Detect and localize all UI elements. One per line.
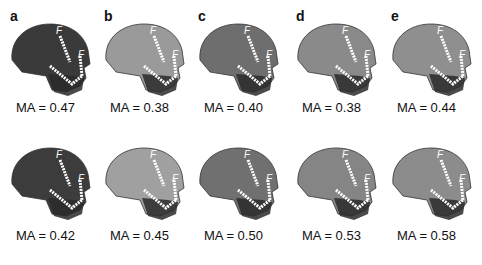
skull-image-c-bottom: FF — [192, 140, 287, 226]
skull-image-d-bottom: FF — [290, 140, 385, 226]
force-label: F — [172, 49, 179, 60]
skull-image-d-top: FF — [290, 16, 385, 102]
skull-image-e-top: FF — [385, 16, 480, 102]
force-label: F — [244, 149, 251, 160]
force-label: F — [459, 49, 466, 60]
ma-value-c-top: MA = 0.40 — [204, 100, 263, 115]
force-label: F — [437, 149, 444, 160]
force-label: F — [150, 25, 157, 36]
force-label: F — [56, 149, 63, 160]
force-label: F — [244, 25, 251, 36]
force-label: F — [364, 173, 371, 184]
force-label: F — [172, 173, 179, 184]
skull-image-e-bottom: FF — [385, 140, 480, 226]
ma-value-c-bottom: MA = 0.50 — [204, 228, 263, 243]
ma-value-d-top: MA = 0.38 — [302, 100, 361, 115]
force-label: F — [364, 49, 371, 60]
force-label: F — [56, 25, 63, 36]
force-label: F — [78, 173, 85, 184]
force-label: F — [342, 25, 349, 36]
force-label: F — [437, 25, 444, 36]
force-label: F — [266, 173, 273, 184]
ma-value-e-top: MA = 0.44 — [397, 100, 456, 115]
force-label: F — [150, 149, 157, 160]
ma-value-b-bottom: MA = 0.45 — [110, 228, 169, 243]
ma-value-a-top: MA = 0.47 — [16, 100, 75, 115]
force-label: F — [78, 49, 85, 60]
ma-value-d-bottom: MA = 0.53 — [302, 228, 361, 243]
skull-image-b-bottom: FF — [98, 140, 193, 226]
ma-value-e-bottom: MA = 0.58 — [397, 228, 456, 243]
force-label: F — [342, 149, 349, 160]
skull-image-b-top: FF — [98, 16, 193, 102]
ma-value-a-bottom: MA = 0.42 — [16, 228, 75, 243]
ma-value-b-top: MA = 0.38 — [110, 100, 169, 115]
skull-image-a-top: FF — [4, 16, 99, 102]
skull-image-c-top: FF — [192, 16, 287, 102]
force-label: F — [459, 173, 466, 184]
skull-image-a-bottom: FF — [4, 140, 99, 226]
force-label: F — [266, 49, 273, 60]
